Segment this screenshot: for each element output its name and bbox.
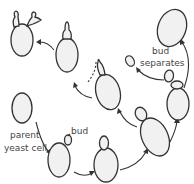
parent-yeast-cell	[12, 93, 32, 123]
attached-bud	[171, 81, 183, 89]
growing-bud	[100, 136, 109, 150]
daughter-cell-large	[152, 5, 191, 50]
freed-bud	[124, 54, 136, 68]
cell-growing-bud	[94, 148, 118, 182]
label-bud-separates-2: separates	[140, 58, 185, 68]
elongated-bud	[97, 60, 105, 76]
cell-tall-bud	[56, 38, 78, 72]
tall-bud	[63, 22, 72, 39]
arrow-8	[75, 86, 92, 98]
arrow-7-head	[117, 108, 122, 114]
arrow-6	[138, 70, 164, 80]
cell-small-bud	[48, 143, 70, 177]
cell-before-separation	[167, 88, 189, 120]
arrow-9	[40, 42, 54, 50]
bud-left	[13, 11, 19, 27]
cell-elongated-bud	[92, 72, 124, 113]
separating-bud	[164, 69, 175, 82]
label-parent: parent	[10, 130, 40, 140]
arrow-7	[120, 112, 137, 127]
arrow-3	[120, 152, 146, 170]
label-yeast-cell: yeast cell	[4, 143, 47, 153]
small-bud	[65, 135, 72, 145]
arrow-4	[170, 121, 177, 142]
label-bud-separates-1: bud	[152, 46, 169, 56]
arrow-9-head	[36, 39, 41, 45]
yeast-budding-diagram: parent yeast cell bud bud separates	[0, 0, 194, 184]
bud-right	[27, 12, 41, 26]
label-bud: bud	[71, 126, 88, 136]
cell-two-buds	[11, 24, 33, 56]
arrow-2	[74, 172, 92, 175]
arrow-10	[88, 62, 96, 82]
arrow-2-head	[89, 171, 95, 176]
